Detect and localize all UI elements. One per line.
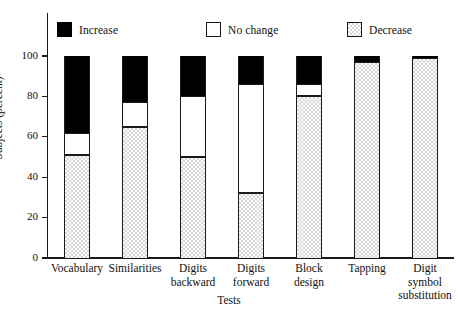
bar-vocabulary	[64, 56, 90, 258]
segment-increase	[413, 56, 437, 58]
chart-legend: Increase No change Decrease	[0, 0, 458, 48]
legend-item-decrease: Decrease	[347, 22, 412, 37]
category-label: Vocabulary	[48, 262, 106, 276]
bar-similarities	[122, 56, 148, 258]
y-tick-label: 80	[4, 89, 38, 101]
segment-no-change	[65, 133, 89, 155]
category-label-line: forward	[222, 276, 280, 290]
category-label: Digitsforward	[222, 262, 280, 289]
legend-label-no-change: No change	[228, 24, 278, 36]
y-tick-label: 100	[4, 49, 38, 61]
segment-increase	[123, 56, 147, 102]
y-tick-label: 0	[4, 251, 38, 263]
category-label-line: Digits	[222, 262, 280, 276]
category-label: Similarities	[106, 262, 164, 276]
segment-no-change	[181, 96, 205, 157]
y-tick-label: 40	[4, 170, 38, 182]
bar-digits-forward	[238, 56, 264, 258]
category-label-line: Digit symbol	[396, 262, 454, 289]
segment-no-change	[123, 102, 147, 126]
segment-decrease	[65, 155, 89, 258]
category-label-line: Tapping	[338, 262, 396, 276]
category-label: Blockdesign	[280, 262, 338, 289]
segment-no-change	[239, 84, 263, 193]
bar-block-design	[296, 56, 322, 258]
decrease-swatch	[347, 22, 362, 37]
category-label-line: Vocabulary	[48, 262, 106, 276]
segment-decrease	[239, 193, 263, 258]
segment-decrease	[123, 127, 147, 258]
segment-increase	[239, 56, 263, 84]
legend-label-increase: Increase	[79, 24, 118, 36]
segment-decrease	[413, 58, 437, 258]
segment-increase	[181, 56, 205, 96]
segment-increase	[297, 56, 321, 84]
increase-swatch	[57, 22, 72, 37]
segment-no-change	[297, 84, 321, 96]
y-tick-label: 60	[4, 129, 38, 141]
category-label-line: Digits	[164, 262, 222, 276]
segment-decrease	[297, 96, 321, 258]
legend-label-decrease: Decrease	[369, 24, 412, 36]
bar-tapping	[354, 56, 380, 258]
segment-decrease	[355, 62, 379, 258]
category-label-line: Similarities	[106, 262, 164, 276]
segment-decrease	[181, 157, 205, 258]
legend-item-no-change: No change	[206, 22, 278, 37]
category-label-line: design	[280, 276, 338, 290]
segment-increase	[355, 56, 379, 62]
category-label: Digit symbolsubstitution	[396, 262, 454, 303]
category-label: Tapping	[338, 262, 396, 276]
legend-item-increase: Increase	[57, 22, 118, 37]
x-axis-label: Tests	[0, 294, 458, 306]
bar-digits-backward	[180, 56, 206, 258]
bar-digit-symbol-substitution	[412, 56, 438, 258]
category-label-line: substitution	[396, 289, 454, 303]
stacked-bar-chart: Increase No change Decrease Subjects (pe…	[0, 0, 458, 314]
category-label-line: Block	[280, 262, 338, 276]
y-tick-label: 20	[4, 210, 38, 222]
no-change-swatch	[206, 22, 221, 37]
plot-area	[48, 56, 454, 258]
segment-increase	[65, 56, 89, 133]
category-label: Digitsbackward	[164, 262, 222, 289]
category-label-line: backward	[164, 276, 222, 290]
